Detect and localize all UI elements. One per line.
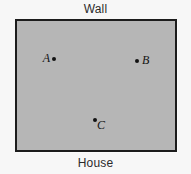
point-b-dot [135, 59, 139, 63]
point-c-label: C [97, 119, 105, 131]
yard-diagram: Wall A B C House [0, 0, 191, 174]
point-b-label: B [142, 54, 149, 66]
wall-label: Wall [0, 2, 191, 16]
point-a-label: A [43, 52, 50, 64]
yard-rectangle: A B C [15, 19, 177, 152]
point-a-dot [52, 57, 56, 61]
house-label: House [0, 156, 191, 170]
